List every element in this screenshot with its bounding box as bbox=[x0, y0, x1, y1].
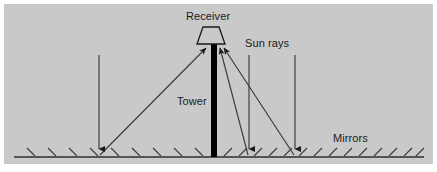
mirror-hatch-icon bbox=[269, 148, 277, 156]
mirror-hatch-icon bbox=[27, 148, 35, 156]
tower-label: Tower bbox=[177, 96, 207, 107]
mirror-hatch-icon bbox=[174, 148, 182, 156]
mirror-hatch-icon bbox=[374, 148, 382, 156]
receiver-label: Receiver bbox=[186, 11, 230, 22]
mirror-hatch-icon bbox=[404, 148, 412, 156]
mirror-hatch-icon bbox=[314, 148, 322, 156]
trapezoid-receiver-icon bbox=[197, 27, 225, 44]
mirrors-label: Mirrors bbox=[333, 133, 368, 144]
mirror-hatch-icon bbox=[299, 148, 307, 156]
mirror-hatch-icon bbox=[132, 148, 140, 156]
solar-tower-diagram bbox=[0, 0, 437, 172]
mirror-hatch-icon bbox=[48, 148, 56, 156]
tower-icon bbox=[211, 42, 217, 157]
mirror-hatch-icon bbox=[111, 148, 119, 156]
mirror-hatch-icon bbox=[153, 148, 161, 156]
mirror-hatch-right-group bbox=[224, 148, 424, 156]
mirror-hatch-icon bbox=[224, 148, 232, 156]
mirror-hatch-icon bbox=[284, 148, 292, 156]
mirror-hatch-icon bbox=[254, 148, 262, 156]
mirror-hatch-icon bbox=[195, 148, 203, 156]
diagram-screenshot: Receiver Sun rays Tower Mirrors bbox=[0, 0, 437, 172]
mirror-hatch-icon bbox=[416, 148, 424, 156]
mirror-hatch-icon bbox=[90, 148, 98, 156]
sun-rays-label: Sun rays bbox=[245, 38, 289, 49]
mirror-hatch-icon bbox=[239, 148, 247, 156]
mirror-hatch-icon bbox=[69, 148, 77, 156]
mirror-hatch-left-group bbox=[27, 148, 203, 156]
mirror-hatch-icon bbox=[329, 148, 337, 156]
mirror-hatch-icon bbox=[359, 148, 367, 156]
mirror-hatch-icon bbox=[389, 148, 397, 156]
mirror-hatch-icon bbox=[344, 148, 352, 156]
